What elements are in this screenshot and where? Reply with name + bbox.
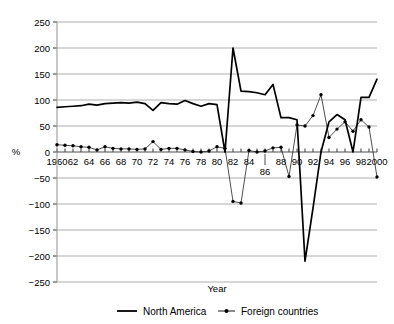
data-point-marker [183, 148, 186, 151]
y-axis-tick-labels: 250200150100500−50−100−150−200−250 [29, 17, 50, 288]
x-tick-label: 78 [196, 156, 207, 167]
x-tick-label: 86 [260, 166, 271, 177]
data-point-marker [263, 149, 266, 152]
x-tick-label: 94 [324, 156, 335, 167]
data-point-marker [247, 149, 250, 152]
x-tick-label: 64 [84, 156, 95, 167]
data-point-marker [79, 145, 82, 148]
data-point-marker [175, 147, 178, 150]
data-point-marker [335, 127, 338, 130]
data-point-marker [231, 200, 234, 203]
y-tick-label: 50 [39, 121, 50, 132]
data-point-marker [135, 148, 138, 151]
y-tick-label: −150 [29, 225, 50, 236]
line-chart: 250200150100500−50−100−150−200−250 19606… [0, 0, 394, 324]
data-point-marker [71, 144, 74, 147]
x-tick-label: 68 [116, 156, 127, 167]
data-point-marker [191, 150, 194, 153]
data-point-marker [327, 136, 330, 139]
series-line-north-america [57, 48, 377, 261]
x-axis-title: Year [207, 283, 226, 294]
x-tick-label: 76 [180, 156, 191, 167]
data-point-marker [87, 146, 90, 149]
data-point-marker [255, 150, 258, 153]
data-point-marker [311, 114, 314, 117]
x-tick-label: 98 [356, 156, 367, 167]
data-point-marker [151, 140, 154, 143]
data-point-marker [207, 149, 210, 152]
x-tick-label: 70 [132, 156, 143, 167]
y-tick-label: 200 [34, 43, 50, 54]
x-tick-label: 80 [212, 156, 223, 167]
data-point-marker [375, 175, 378, 178]
data-point-marker [95, 148, 98, 151]
x-tick-label: 66 [100, 156, 111, 167]
data-point-marker [303, 124, 306, 127]
y-tick-label: −50 [34, 173, 50, 184]
x-tick-label: 82 [228, 156, 239, 167]
data-point-marker [119, 147, 122, 150]
y-tick-label: 100 [34, 95, 50, 106]
y-axis-title: % [12, 146, 21, 157]
chart-container: 250200150100500−50−100−150−200−250 19606… [0, 0, 394, 324]
data-point-marker [127, 147, 130, 150]
data-point-marker [103, 145, 106, 148]
x-tick-label: 84 [244, 156, 255, 167]
y-tick-label: 150 [34, 69, 50, 80]
y-tick-label: −200 [29, 251, 50, 262]
x-tick-label: 96 [340, 156, 351, 167]
data-point-marker [239, 201, 242, 204]
legend-marker-foreign-countries [225, 309, 229, 313]
x-tick-label: 74 [164, 156, 175, 167]
y-tick-label: −100 [29, 199, 50, 210]
data-point-marker [279, 146, 282, 149]
data-point-marker [287, 175, 290, 178]
x-tick-label: 92 [308, 156, 319, 167]
data-point-marker [111, 147, 114, 150]
data-point-marker [199, 150, 202, 153]
data-point-marker [351, 130, 354, 133]
legend-label-north-america: North America [143, 306, 207, 317]
data-point-marker [143, 147, 146, 150]
data-point-marker [367, 125, 370, 128]
data-point-marker [215, 145, 218, 148]
x-tick-label: 72 [148, 156, 159, 167]
y-tick-label: −250 [29, 277, 50, 288]
y-tick-label: 250 [34, 17, 50, 28]
x-tick-label: 90 [292, 156, 303, 167]
data-point-marker [55, 143, 58, 146]
data-point-marker [63, 144, 66, 147]
data-point-marker [271, 146, 274, 149]
x-tick-label: 2000 [366, 156, 387, 167]
x-tick-label: 62 [68, 156, 79, 167]
data-point-marker [159, 148, 162, 151]
data-point-marker [319, 93, 322, 96]
chart-legend: North America Foreign countries [117, 306, 318, 317]
legend-label-foreign-countries: Foreign countries [241, 306, 318, 317]
x-axis-tick-labels: 1960626466687072747678808284868890929496… [46, 156, 387, 177]
data-point-marker [359, 118, 362, 121]
data-point-marker [167, 147, 170, 150]
